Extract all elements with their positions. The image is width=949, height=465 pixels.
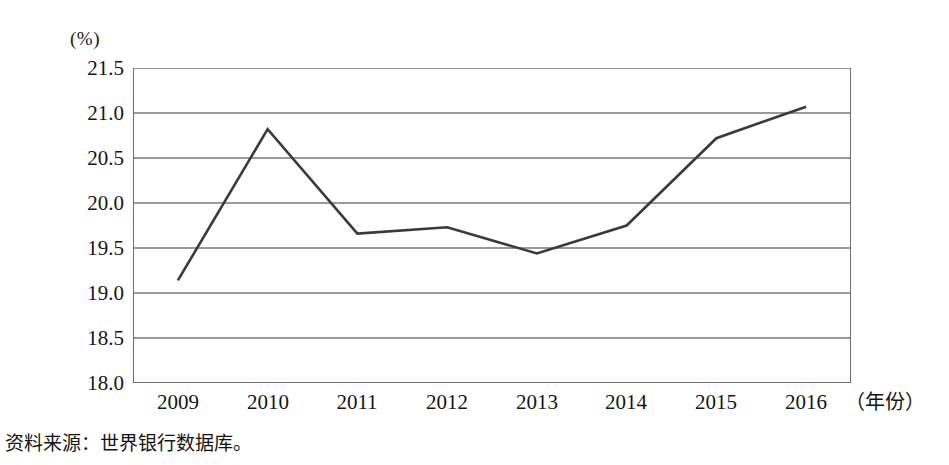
x-axis-unit-label: （年份）	[845, 389, 925, 415]
y-tick-label: 20.0	[64, 193, 124, 214]
y-tick-label: 20.5	[64, 148, 124, 169]
source-note: 资料来源：世界银行数据库。	[5, 432, 252, 456]
x-axis-tick-labels: 2009 2010 2011 2012 2013 2014 2015 2016	[0, 389, 949, 423]
y-tick-label: 19.0	[64, 283, 124, 304]
gridlines	[133, 68, 851, 338]
y-tick-label: 21.5	[64, 58, 124, 79]
axis-lines	[133, 68, 851, 383]
line-chart-svg	[133, 68, 851, 383]
plot-area	[133, 68, 851, 383]
data-series-line	[178, 107, 806, 281]
chart-figure: (%) 21.5 21.0 20.5 20.0 19.5 19.0 18.5 1…	[0, 0, 949, 465]
y-tick-label: 19.5	[64, 238, 124, 259]
y-tick-label: 21.0	[64, 103, 124, 124]
y-tick-label: 18.5	[64, 328, 124, 349]
